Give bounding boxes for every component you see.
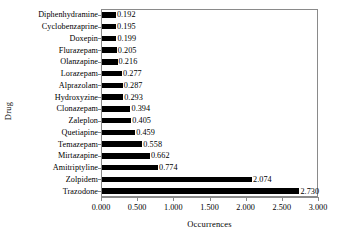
bar-row: Flurazepam0.205 [0, 44, 349, 56]
x-axis-tick [173, 197, 174, 201]
x-axis-tick [318, 197, 319, 201]
bar [102, 177, 252, 182]
bar-value-label: 2.730 [300, 187, 319, 196]
category-label: Zolpidem [0, 175, 98, 184]
bar-value-label: 0.558 [143, 140, 162, 149]
bar [102, 165, 158, 170]
bar-row: Diphenhydramine0.192 [0, 9, 349, 21]
y-axis-tick [98, 121, 102, 122]
category-label: Olanzapine [0, 57, 98, 66]
bar [102, 153, 150, 158]
bar [102, 47, 117, 52]
bar [102, 188, 299, 193]
y-axis-tick [98, 85, 102, 86]
bar-row: Doxepin0.199 [0, 33, 349, 45]
bar [102, 106, 130, 111]
y-axis-tick [98, 15, 102, 16]
y-axis-tick [98, 179, 102, 180]
y-axis-tick [98, 50, 102, 51]
bar-value-label: 0.205 [118, 46, 137, 55]
y-axis-tick [98, 191, 102, 192]
bar [102, 130, 135, 135]
category-label: Quetiapine [0, 128, 98, 137]
category-label: Temazepam [0, 140, 98, 149]
y-axis-tick [98, 168, 102, 169]
bar-value-label: 0.195 [117, 22, 136, 31]
bar [102, 59, 118, 64]
bar-value-label: 0.199 [117, 34, 136, 43]
y-axis-tick [98, 132, 102, 133]
y-axis-tick [98, 27, 102, 28]
bar-row: Trazodone2.730 [0, 185, 349, 197]
bar-row: Olanzapine0.216 [0, 56, 349, 68]
y-axis-tick [98, 74, 102, 75]
category-label: Diphenhydramine [0, 10, 98, 19]
bar [102, 83, 123, 88]
y-axis-tick [98, 62, 102, 63]
category-label: Flurazepam [0, 46, 98, 55]
bar [102, 36, 116, 41]
x-axis-tick [282, 197, 283, 201]
bar-row: Quetiapine0.459 [0, 127, 349, 139]
y-axis-tick [98, 109, 102, 110]
x-axis-tick [137, 197, 138, 201]
bar-value-label: 0.216 [119, 57, 138, 66]
bar-value-label: 0.662 [151, 151, 170, 160]
category-label: Alprazolam [0, 81, 98, 90]
y-axis-tick [98, 144, 102, 145]
bar-value-label: 2.074 [253, 175, 272, 184]
bar-row: Zaleplon0.405 [0, 115, 349, 127]
bar-value-label: 0.774 [159, 163, 178, 172]
y-axis-tick [98, 97, 102, 98]
x-axis-tick [246, 197, 247, 201]
bar [102, 12, 116, 17]
bar-value-label: 0.405 [132, 116, 151, 125]
bar-value-label: 0.277 [123, 69, 142, 78]
bar-row: Amitriptyline0.774 [0, 162, 349, 174]
bar-row: Lorazepam0.277 [0, 68, 349, 80]
bar [102, 71, 122, 76]
y-axis-tick [98, 38, 102, 39]
category-label: Mirtazapine [0, 151, 98, 160]
bar-row: Alprazolam0.287 [0, 80, 349, 92]
x-axis-tick [210, 197, 211, 201]
bar-chart: Drug Diphenhydramine0.192Cyclobenzaprine… [0, 0, 349, 242]
category-label: Trazodone [0, 187, 98, 196]
category-label: Lorazepam [0, 69, 98, 78]
bar-rows: Diphenhydramine0.192Cyclobenzaprine0.195… [0, 9, 349, 197]
category-label: Doxepin [0, 34, 98, 43]
bar-row: Clonazepam0.394 [0, 103, 349, 115]
bar-value-label: 0.287 [124, 81, 143, 90]
category-label: Clonazepam [0, 104, 98, 113]
bar [102, 94, 123, 99]
x-axis-title: Occurrences [101, 219, 318, 229]
category-label: Zaleplon [0, 116, 98, 125]
bar-row: Zolpidem2.074 [0, 174, 349, 186]
category-label: Hydroxyzine [0, 93, 98, 102]
bar-row: Temazepam0.558 [0, 138, 349, 150]
bar-value-label: 0.394 [131, 104, 150, 113]
category-label: Amitriptyline [0, 163, 98, 172]
bar-value-label: 0.293 [124, 93, 143, 102]
bar [102, 141, 142, 146]
category-label: Cyclobenzaprine [0, 22, 98, 31]
bar [102, 118, 131, 123]
bar-row: Cyclobenzaprine0.195 [0, 21, 349, 33]
bar-value-label: 0.459 [136, 128, 155, 137]
x-axis-tick-label: 3.000 [295, 203, 341, 212]
bar-row: Mirtazapine0.662 [0, 150, 349, 162]
x-axis-tick [101, 197, 102, 201]
bar-value-label: 0.192 [117, 10, 136, 19]
y-axis-tick [98, 156, 102, 157]
bar [102, 24, 116, 29]
bar-row: Hydroxyzine0.293 [0, 91, 349, 103]
